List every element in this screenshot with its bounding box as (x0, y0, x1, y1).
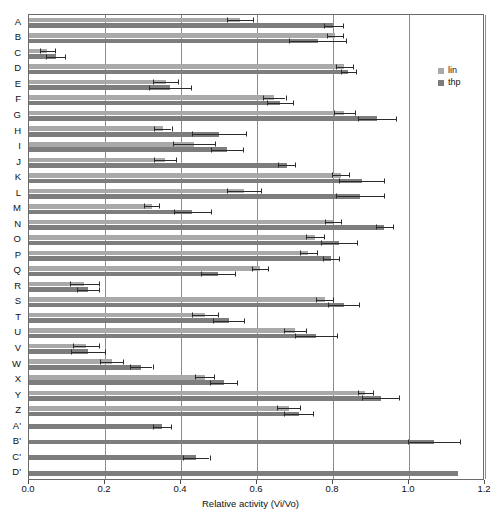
error-bar (154, 129, 171, 130)
error-bar-cap (192, 132, 193, 137)
bar-lin-S (29, 297, 483, 302)
error-bar-cap (99, 344, 100, 349)
error-bar-cap (341, 70, 342, 75)
bar-fill-thp (29, 424, 162, 429)
bar-fill-lin (29, 64, 344, 69)
bar-fill-thp (29, 241, 339, 246)
error-bar-cap (268, 266, 269, 271)
legend-item-lin: lin (438, 66, 461, 75)
y-axis-label-M: M (13, 203, 21, 213)
bar-fill-thp (29, 179, 362, 184)
y-axis-label-C: C (14, 48, 21, 58)
error-bar-cap (191, 85, 192, 90)
bar-fill-lin (29, 111, 344, 116)
error-bar-cap (99, 287, 100, 292)
bar-lin-B (29, 33, 483, 38)
error-bar (323, 259, 340, 260)
error-bar-cap (334, 111, 335, 116)
error-bar (130, 367, 153, 368)
bar-fill-lin (29, 235, 315, 240)
error-bar-cap (384, 194, 385, 199)
error-bar-cap (278, 163, 279, 168)
bar-row (29, 372, 483, 388)
error-bar-cap (346, 39, 347, 44)
bar-row (29, 62, 483, 78)
bar-lin-A (29, 18, 483, 23)
error-bar-cap (408, 440, 409, 445)
bar-fill-thp (29, 334, 316, 339)
x-axis-title: Relative activity (Vi/Vo) (0, 498, 501, 509)
x-tick-label-1.2: 1.2 (477, 484, 490, 494)
y-axis-label-R: R (14, 281, 21, 291)
error-bar-cap (396, 116, 397, 121)
y-axis-label-F: F (15, 94, 21, 104)
bar-row (29, 201, 483, 217)
error-bar-cap (306, 328, 307, 333)
bar-lin-P (29, 251, 483, 256)
plot-area (28, 14, 484, 480)
bar-fill-thp (29, 365, 141, 370)
y-axis-label-A: A (15, 17, 21, 27)
bar-fill-thp (29, 210, 192, 215)
error-bar (192, 315, 219, 316)
error-bar-cap (201, 272, 202, 277)
bar-fill-thp (29, 225, 384, 230)
bar-fill-lin (29, 313, 205, 318)
bar-thp-A (29, 23, 483, 28)
y-axis-label-B-prime: B' (13, 436, 21, 446)
error-bar-cap (324, 23, 325, 28)
bar-thp-C' (29, 455, 483, 460)
bar-row (29, 326, 483, 342)
bar-fill-thp (29, 455, 196, 460)
error-bar (73, 346, 100, 347)
x-tick-label-0.0: 0.0 (21, 484, 34, 494)
bar-thp-V (29, 349, 483, 354)
bar-row (29, 434, 483, 450)
error-bar (183, 458, 210, 459)
error-bar (100, 362, 123, 363)
error-bar-cap (323, 256, 324, 261)
bar-thp-M (29, 210, 483, 215)
error-bar-cap (215, 142, 216, 147)
error-bar (210, 383, 237, 384)
error-bar-cap (130, 365, 131, 370)
bar-fill-thp (29, 147, 227, 152)
error-bar-cap (73, 344, 74, 349)
error-bar-cap (341, 219, 342, 224)
error-bar-cap (144, 204, 145, 209)
bar-fill-lin (29, 375, 205, 380)
bar-lin-U (29, 328, 483, 333)
bar-row (29, 93, 483, 109)
error-bar (263, 98, 286, 99)
y-axis-label-N: N (14, 219, 21, 229)
error-bar (70, 284, 99, 285)
bar-thp-S (29, 303, 483, 308)
bar-fill-lin (29, 142, 194, 147)
error-bar (211, 150, 243, 151)
bar-row (29, 31, 483, 47)
y-axis-label-H: H (14, 126, 21, 136)
error-bar-cap (159, 204, 160, 209)
error-bar-cap (289, 39, 290, 44)
bar-row (29, 139, 483, 155)
error-bar (358, 119, 396, 120)
bar-fill-thp (29, 380, 224, 385)
bar-thp-G (29, 116, 483, 121)
error-bar-cap (211, 147, 212, 152)
bar-row (29, 388, 483, 404)
bar-fill-thp (29, 303, 344, 308)
bar-lin-D (29, 64, 483, 69)
error-bar-cap (123, 359, 124, 364)
error-bar (192, 134, 245, 135)
error-bar (316, 300, 333, 301)
bar-thp-U (29, 334, 483, 339)
error-bar-cap (183, 455, 184, 460)
error-bar (325, 222, 342, 223)
bar-thp-B' (29, 440, 483, 445)
bar-row (29, 419, 483, 435)
bar-thp-T (29, 318, 483, 323)
error-bar (195, 377, 214, 378)
x-tick-label-1.0: 1.0 (401, 484, 414, 494)
bar-fill-thp (29, 412, 299, 417)
bar-row (29, 108, 483, 124)
